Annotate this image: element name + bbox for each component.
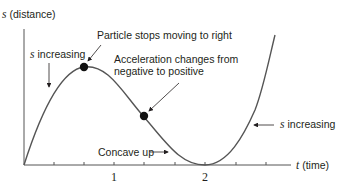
x-axis-label: t(time) — [296, 159, 329, 171]
y-axis-label: s(distance) — [2, 8, 56, 20]
annotation-concave-up: Concave up — [98, 146, 154, 158]
annotation-s-increasing-left: sincreasing — [30, 48, 86, 60]
inflection-point-marker — [140, 112, 148, 120]
annotation-particle-stops: Particle stops moving to right — [97, 29, 232, 41]
annotation-acceleration-line1: Acceleration changes from — [114, 53, 239, 65]
arrow-particle-stops — [88, 45, 101, 61]
chart: 1 2 s(distance) t(time) sincreasing Part… — [0, 0, 339, 194]
x-tick-label-2: 2 — [202, 170, 208, 184]
annotation-acceleration-line2: negative to positive — [114, 65, 204, 77]
x-tick-label-1: 1 — [111, 170, 117, 184]
arrow-acceleration — [149, 83, 179, 111]
max-point-marker — [80, 63, 88, 71]
annotation-s-increasing-right: sincreasing — [280, 118, 336, 130]
